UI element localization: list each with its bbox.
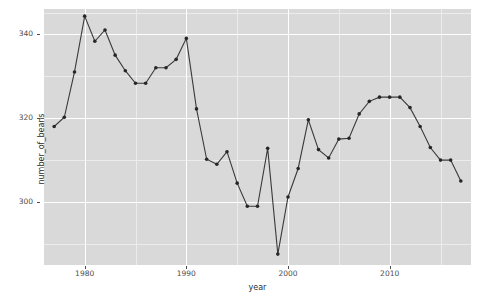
x-tick-label: 2010: [370, 270, 410, 278]
x-tick-label: 2000: [268, 270, 308, 278]
x-tick-mark: [186, 266, 187, 269]
chart-container: 300320340 1980199020002010 number_of_bea…: [0, 0, 495, 298]
y-axis-title: number_of_beans: [37, 113, 46, 184]
x-tick-label: 1990: [166, 270, 206, 278]
x-tick-label: 1980: [65, 270, 105, 278]
x-tick-mark: [390, 266, 391, 269]
x-axis-ticks: 1980199020002010: [0, 0, 495, 298]
x-tick-mark: [288, 266, 289, 269]
x-axis-title: year: [44, 283, 471, 292]
x-tick-mark: [85, 266, 86, 269]
